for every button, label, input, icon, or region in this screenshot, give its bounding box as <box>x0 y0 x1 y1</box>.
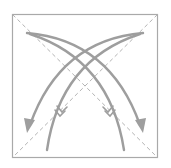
arrowhead-icon <box>24 118 35 133</box>
return-arrow-bl-to-tr <box>47 34 140 150</box>
fold-arrow-tr-to-bl <box>24 33 143 133</box>
arrowhead-icon <box>135 118 146 133</box>
fold-arrow-tl-to-br <box>27 33 146 133</box>
origami-fold-diagram <box>0 0 171 168</box>
